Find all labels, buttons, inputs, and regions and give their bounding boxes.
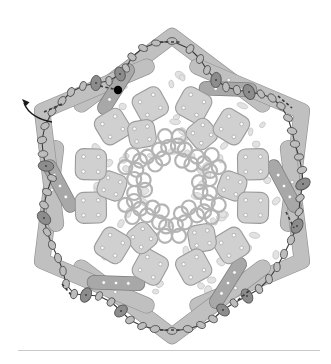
chain-bead xyxy=(222,82,230,92)
caption-rule xyxy=(18,350,320,351)
chain-bead xyxy=(290,140,300,148)
entry-arrow-head xyxy=(22,99,30,107)
figure-root xyxy=(0,0,331,364)
tile-dot xyxy=(82,170,86,174)
structure-diagram-svg xyxy=(0,0,331,364)
tile-dot xyxy=(240,122,244,126)
dice-tile xyxy=(210,105,253,148)
tile-dot xyxy=(127,282,131,286)
tile-dot xyxy=(159,262,163,266)
bead-center-dot xyxy=(119,73,121,75)
tile-dot xyxy=(220,292,224,296)
tile-dot xyxy=(206,229,210,233)
ring xyxy=(178,215,192,229)
tile-dot xyxy=(195,244,199,248)
chain-bead xyxy=(167,38,177,45)
tile-layer xyxy=(75,84,269,288)
tile-dot xyxy=(288,195,292,199)
tile-dot xyxy=(259,199,263,203)
tile-dot xyxy=(208,241,212,245)
tile-dot xyxy=(240,246,244,250)
dice-tile xyxy=(91,105,134,148)
tile-dot xyxy=(189,276,193,280)
dice-tile xyxy=(91,224,134,267)
bead-center-dot xyxy=(302,183,304,185)
start-point-marker xyxy=(114,86,122,94)
tile-dot xyxy=(227,78,230,81)
tile-dot xyxy=(97,213,101,217)
tile-dot xyxy=(226,281,230,285)
bead-center-dot xyxy=(222,309,224,311)
bead-center-dot xyxy=(43,217,45,219)
tile-dot xyxy=(244,198,248,202)
tile-dot xyxy=(219,127,223,131)
tile-dot xyxy=(201,123,205,127)
tile-dot xyxy=(146,125,150,129)
tile-dot xyxy=(226,176,230,180)
tile-dot xyxy=(58,184,62,188)
tile-dot xyxy=(97,155,101,159)
tile-dot xyxy=(259,214,263,218)
tile-dot xyxy=(101,122,105,126)
tile-dot xyxy=(276,173,280,177)
tile-dot xyxy=(114,290,117,293)
tile-dot xyxy=(133,127,137,131)
speckle xyxy=(272,250,279,260)
tile-dot xyxy=(222,188,226,192)
bead-center-dot xyxy=(95,82,97,84)
speckle xyxy=(117,218,126,228)
tile-dot xyxy=(102,188,106,192)
tile-dot xyxy=(195,113,199,117)
bead-center-dot xyxy=(120,310,122,312)
tile-dot xyxy=(119,180,123,184)
tile-dot xyxy=(108,135,112,139)
tile-dot xyxy=(199,141,203,145)
tile-dot xyxy=(113,254,117,258)
speckle xyxy=(248,128,253,137)
tile-dot xyxy=(151,276,155,280)
tile-dot xyxy=(291,180,294,183)
tile-dot xyxy=(96,198,100,202)
tile-dot xyxy=(227,254,231,258)
tile-dot xyxy=(244,213,248,217)
tile-dot xyxy=(244,155,248,159)
ring-quad-cluster xyxy=(158,218,186,243)
tile-dot xyxy=(113,115,117,119)
chain-bead xyxy=(167,328,177,335)
speckle xyxy=(252,141,260,148)
tile-dot xyxy=(209,133,213,137)
tile-dot xyxy=(101,246,105,250)
bead-center-dot xyxy=(296,225,298,227)
tile-dot xyxy=(234,193,238,197)
bead-center-dot xyxy=(85,294,87,296)
tile-dot xyxy=(182,262,186,266)
tile-dot xyxy=(232,135,236,139)
tile-dot xyxy=(121,127,125,131)
tile-dot xyxy=(151,93,155,97)
tile-dot xyxy=(121,241,125,245)
dice-tile xyxy=(237,192,269,224)
speckle xyxy=(271,196,282,207)
tile-dot xyxy=(148,138,152,142)
dice-tile xyxy=(75,149,107,181)
dice-tile xyxy=(129,84,171,126)
tile-dot xyxy=(202,100,206,104)
chain-bead xyxy=(280,249,288,259)
tile-dot xyxy=(219,241,223,245)
tile-dot xyxy=(195,255,199,259)
tile-dot xyxy=(232,233,236,237)
tile-dot xyxy=(193,231,197,235)
tile-dot xyxy=(108,98,112,102)
speckle xyxy=(207,277,216,284)
speckle xyxy=(168,80,174,89)
tile-dot xyxy=(138,100,142,104)
tile-dot xyxy=(114,281,118,285)
tile-dot xyxy=(96,170,100,174)
speckle xyxy=(259,121,267,129)
tile-dot xyxy=(106,176,110,180)
ring xyxy=(152,143,166,157)
tile-dot xyxy=(234,286,237,289)
tile-dot xyxy=(282,184,286,188)
tile-dot xyxy=(149,237,153,241)
tile-dot xyxy=(182,106,186,110)
